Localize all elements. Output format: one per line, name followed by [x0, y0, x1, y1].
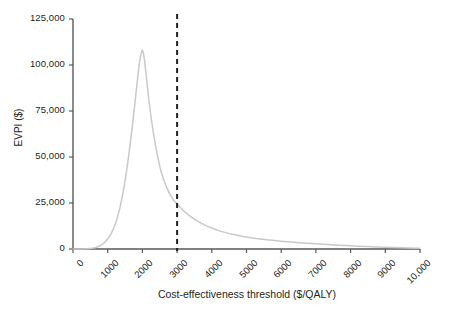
- y-tick-label: 125,000: [3, 12, 65, 23]
- y-tick-label: 100,000: [3, 58, 65, 69]
- y-tick-label: 0: [3, 242, 65, 253]
- x-axis-title: Cost-effectiveness threshold ($/QALY): [73, 288, 421, 300]
- evpi-curve-line: [73, 50, 420, 249]
- figure-container: 025,00050,00075,000100,000125,000 010002…: [0, 0, 451, 315]
- axis-lines: [73, 19, 420, 249]
- y-tick-label: 25,000: [3, 196, 65, 207]
- y-axis-title: EVPI ($): [13, 88, 24, 168]
